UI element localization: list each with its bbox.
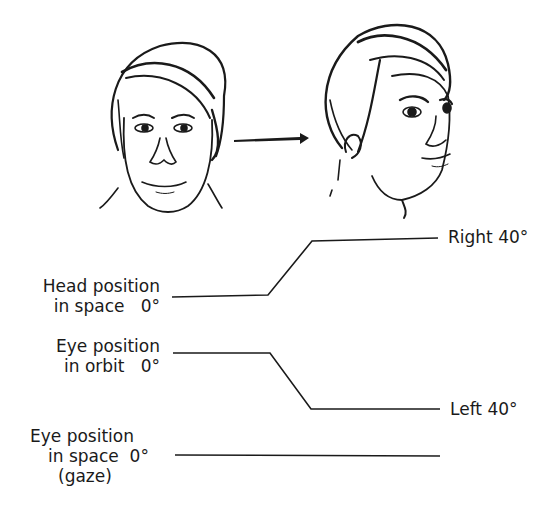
head-position-label-line1: Head position <box>43 276 160 296</box>
eye-orbit-trace <box>173 353 440 409</box>
gaze-label-line3: (gaze) <box>30 466 149 486</box>
eye-orbit-label-line2: in orbit 0° <box>56 356 160 376</box>
right-arrow-icon <box>234 133 309 144</box>
gaze-label-line2: in space 0° <box>30 446 149 466</box>
face-front-illustration <box>100 43 225 212</box>
trace-lines <box>172 238 440 456</box>
left-40-label: Left 40° <box>450 399 518 419</box>
gaze-label: Eye position in space 0° (gaze) <box>30 426 149 486</box>
face-turned-illustration <box>326 25 452 218</box>
head-position-trace <box>172 238 438 297</box>
gaze-label-line1: Eye position <box>30 426 149 446</box>
head-position-label-line2: in space 0° <box>43 296 160 316</box>
eye-orbit-label-line1: Eye position <box>56 336 160 356</box>
head-position-label: Head position in space 0° <box>43 276 160 316</box>
right-40-label: Right 40° <box>448 227 528 247</box>
eye-orbit-label: Eye position in orbit 0° <box>56 336 160 376</box>
gaze-trace <box>175 455 440 456</box>
